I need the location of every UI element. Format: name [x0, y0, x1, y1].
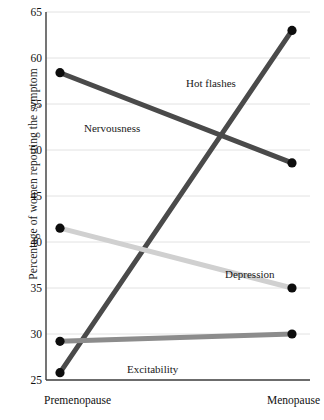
data-point-nervousness-menopause	[287, 158, 296, 167]
data-point-excitability-menopause	[287, 329, 296, 338]
series-label-excitability: Excitability	[127, 363, 178, 375]
series-label-hot-flashes: Hot flashes	[186, 77, 236, 89]
series-label-nervousness: Nervousness	[84, 122, 140, 134]
x-label-menopause: Menopause	[267, 394, 320, 406]
plot-area	[0, 0, 324, 420]
line-chart: Percentage of women reporting the sympto…	[0, 0, 324, 420]
data-point-nervousness-premenopause	[55, 68, 64, 77]
data-point-hot-flashes-premenopause	[55, 368, 64, 377]
series-line-hot-flashes	[60, 30, 292, 372]
x-label-premenopause: Premenopause	[44, 394, 111, 406]
data-point-hot-flashes-menopause	[287, 26, 296, 35]
series-line-nervousness	[60, 73, 292, 163]
data-point-depression-premenopause	[55, 224, 64, 233]
data-point-excitability-premenopause	[55, 337, 64, 346]
series-line-excitability	[60, 334, 292, 341]
series-label-depression: Depression	[225, 268, 275, 280]
data-point-depression-menopause	[287, 283, 296, 292]
